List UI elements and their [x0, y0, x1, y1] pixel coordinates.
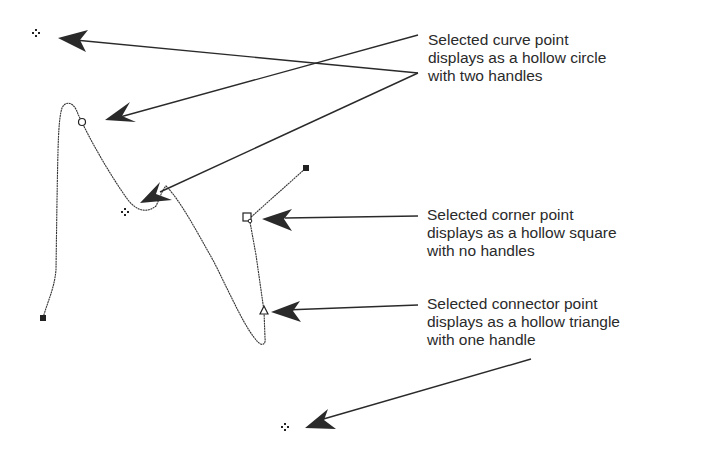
- start-anchor-point[interactable]: [40, 315, 46, 321]
- curve-point-hollow-circle-icon[interactable]: [79, 119, 86, 126]
- arrow-to-handle-bottom: [140, 182, 172, 203]
- callout-curve-point: Selected curve point displays as a hollo…: [428, 31, 606, 85]
- arrow-to-connector-point: [271, 301, 301, 322]
- callout-line: Selected curve point: [428, 31, 606, 49]
- bezier-path[interactable]: [43, 103, 306, 344]
- callout-line: displays as a hollow triangle: [427, 313, 620, 331]
- connector-point-hollow-triangle-icon[interactable]: [260, 306, 268, 314]
- arrow-to-connector-handle: [305, 409, 336, 429]
- callout-line: with no handles: [427, 242, 617, 260]
- callout-line: Selected connector point: [427, 295, 620, 313]
- arrow-to-corner-point: [262, 209, 292, 231]
- connector-handle-icon[interactable]: [281, 423, 289, 431]
- callout-line: displays as a hollow circle: [428, 49, 606, 67]
- arrow-to-curve-point: [105, 102, 136, 122]
- curve-handle-bottom-icon[interactable]: [121, 208, 129, 216]
- callout-line: Selected corner point: [427, 206, 617, 224]
- callout-line: displays as a hollow square: [427, 224, 617, 242]
- end-anchor-point[interactable]: [303, 165, 309, 171]
- callout-line: with two handles: [428, 67, 606, 85]
- arrowheads: [58, 30, 336, 429]
- callout-corner-point: Selected corner point displays as a holl…: [427, 206, 617, 260]
- callout-connector-point: Selected connector point displays as a h…: [427, 295, 620, 349]
- callout-line: with one handle: [427, 331, 620, 349]
- curve-handle-top-icon[interactable]: [32, 29, 40, 37]
